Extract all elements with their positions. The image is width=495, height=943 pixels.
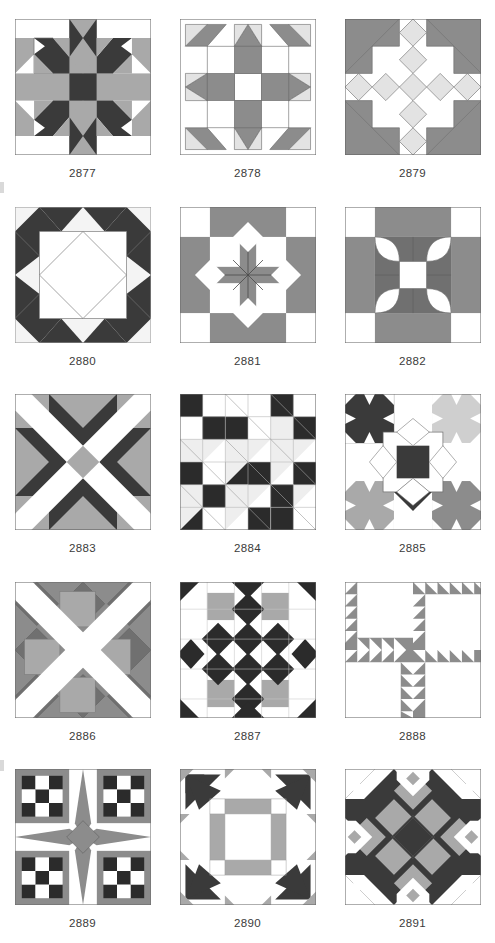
block-cell-2878: 2878 <box>165 19 330 207</box>
block-label: 2888 <box>399 731 426 743</box>
quilt-block-2886 <box>15 582 151 718</box>
block-cell-2888: 2888 <box>330 582 495 770</box>
quilt-block-2889 <box>15 769 151 905</box>
block-grid: 2877 <box>0 0 495 943</box>
quilt-block-2890 <box>180 769 316 905</box>
quilt-block-2880 <box>15 207 151 343</box>
block-label: 2890 <box>234 918 261 930</box>
block-label: 2884 <box>234 543 261 555</box>
quilt-block-2879 <box>345 19 481 155</box>
block-cell-2881: 2881 <box>165 207 330 395</box>
quilt-block-2882 <box>345 207 481 343</box>
quilt-block-2888 <box>345 582 481 718</box>
block-cell-2891: 2891 <box>330 769 495 943</box>
block-cell-2886: 2886 <box>0 582 165 770</box>
block-label: 2877 <box>69 168 96 180</box>
quilt-block-2881 <box>180 207 316 343</box>
block-cell-2877: 2877 <box>0 19 165 207</box>
quilt-block-2877 <box>15 19 151 155</box>
quilt-block-2887 <box>180 582 316 718</box>
block-cell-2879: 2879 <box>330 19 495 207</box>
block-cell-2889: 2889 <box>0 769 165 943</box>
block-label: 2880 <box>69 356 96 368</box>
quilt-block-2891 <box>345 769 481 905</box>
quilt-block-2885 <box>345 394 481 530</box>
block-cell-2884: 2884 <box>165 394 330 582</box>
block-cell-2883: 2883 <box>0 394 165 582</box>
block-cell-2882: 2882 <box>330 207 495 395</box>
block-cell-2890: 2890 <box>165 769 330 943</box>
block-cell-2880: 2880 <box>0 207 165 395</box>
block-cell-2887: 2887 <box>165 582 330 770</box>
block-label: 2881 <box>234 356 261 368</box>
quilt-block-2884 <box>180 394 316 530</box>
block-label: 2878 <box>234 168 261 180</box>
block-label: 2879 <box>399 168 426 180</box>
quilt-block-2878 <box>180 19 316 155</box>
block-label: 2882 <box>399 356 426 368</box>
quilt-pattern-sheet: 2877 <box>0 0 495 943</box>
block-label: 2883 <box>69 543 96 555</box>
block-label: 2891 <box>399 918 426 930</box>
block-label: 2886 <box>69 731 96 743</box>
block-label: 2889 <box>69 918 96 930</box>
quilt-block-2883 <box>15 394 151 530</box>
block-cell-2885: 2885 <box>330 394 495 582</box>
block-label: 2887 <box>234 731 261 743</box>
block-label: 2885 <box>399 543 426 555</box>
